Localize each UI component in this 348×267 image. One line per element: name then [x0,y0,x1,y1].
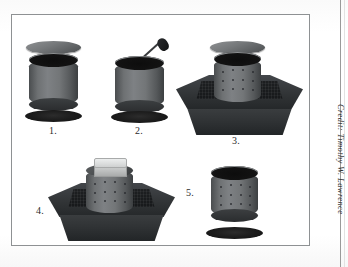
open-cylinder [115,63,164,107]
cylinder-open-top [214,52,261,66]
step-label-3: 3. [232,135,240,146]
cylinder-open-top [211,166,258,180]
tamping-rod-head [155,36,170,52]
perforated-cylinder [214,59,261,102]
page-background: 1. 2. [0,0,348,267]
cylinder-open-top [115,56,164,70]
step-label-5: 5. [186,187,194,198]
tray-front-face [48,215,175,241]
step-label-1: 1. [49,125,57,136]
base-disc [206,227,263,239]
weight-block [94,161,127,177]
weight-block-top [94,158,127,168]
base-disc [25,110,82,122]
plain-cylinder [29,60,78,105]
step-label-2: 2. [135,125,143,136]
tray-front-face [176,109,303,135]
perforated-cylinder [211,173,258,216]
base-disc [111,111,168,123]
cylinder-open-top [29,53,78,67]
photo-credit: Credit: Timothy W. Lawrence [336,104,346,214]
figure-stage: 1. 2. [12,15,309,245]
cylinder-bottom [211,209,258,222]
step-label-4: 4. [36,205,44,216]
figure-frame: 1. 2. [11,14,310,246]
